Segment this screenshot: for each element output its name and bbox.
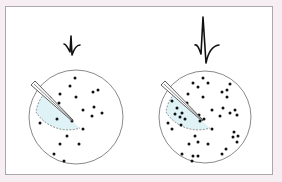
neuron-dot bbox=[197, 155, 200, 158]
neuron-dot bbox=[192, 82, 195, 85]
neuron-dot bbox=[191, 160, 194, 163]
neuron-dot bbox=[78, 143, 81, 146]
neuron-dot bbox=[232, 136, 235, 139]
neuron-dot bbox=[176, 107, 179, 110]
neuron-dot bbox=[69, 85, 72, 88]
neuron-dot bbox=[236, 141, 239, 144]
neuron-dot bbox=[82, 109, 85, 112]
neuron-dot bbox=[202, 77, 205, 80]
neuron-dot bbox=[184, 118, 187, 121]
large-spike-waveform bbox=[195, 17, 219, 63]
neuron-dot bbox=[207, 143, 210, 146]
neuron-dot bbox=[93, 106, 96, 109]
neuron-dot bbox=[181, 153, 184, 156]
neuron-dot bbox=[59, 143, 62, 146]
neuron-dot bbox=[236, 114, 239, 117]
neuron-dot bbox=[207, 82, 210, 85]
neuron-dot bbox=[192, 155, 195, 158]
neuron-dot bbox=[188, 143, 191, 146]
neuron-dot bbox=[221, 91, 224, 94]
neuron-dot bbox=[226, 89, 229, 92]
neuron-dot bbox=[171, 100, 174, 103]
neuron-dot bbox=[181, 112, 184, 115]
neuron-dot bbox=[39, 122, 42, 125]
panel-sparse bbox=[29, 36, 123, 164]
neuron-dot bbox=[197, 141, 200, 144]
neuron-dot bbox=[174, 113, 177, 116]
neuron-dot bbox=[92, 91, 95, 94]
neuron-dot bbox=[82, 128, 85, 131]
neuron-dot bbox=[59, 93, 62, 96]
neuron-dot bbox=[221, 153, 224, 156]
neuron-dot bbox=[229, 112, 232, 115]
neuron-dot bbox=[194, 135, 197, 138]
figure-canvas bbox=[0, 0, 282, 182]
neuron-dot bbox=[91, 115, 94, 118]
small-spike-waveform bbox=[64, 36, 80, 55]
neuron-dot bbox=[63, 160, 66, 163]
neuron-dot bbox=[75, 96, 78, 99]
neuron-dot bbox=[197, 86, 200, 89]
neuron-dot bbox=[66, 135, 69, 138]
neuron-dot bbox=[233, 131, 236, 134]
panel-dense bbox=[159, 17, 251, 163]
neuron-dot bbox=[211, 109, 214, 112]
neuron-dot bbox=[211, 128, 214, 131]
neuron-dot bbox=[222, 107, 225, 110]
neuron-dot bbox=[226, 96, 229, 99]
neuron-dot bbox=[179, 116, 182, 119]
neuron-dot bbox=[202, 96, 205, 99]
neuron-dot bbox=[56, 118, 59, 121]
neuron-dot bbox=[180, 124, 183, 127]
neuron-dot bbox=[187, 93, 190, 96]
neuron-dot bbox=[74, 77, 77, 80]
recording-zone bbox=[166, 94, 210, 130]
neuron-dot bbox=[171, 128, 174, 131]
neuron-dot bbox=[225, 148, 228, 151]
neuron-dot bbox=[234, 109, 237, 112]
neuron-dot bbox=[53, 153, 56, 156]
neuron-dot bbox=[101, 112, 104, 115]
neuron-dot bbox=[219, 115, 222, 118]
recording-zone bbox=[36, 94, 80, 130]
neuron-dot bbox=[229, 83, 232, 86]
neuron-dot bbox=[167, 122, 170, 125]
neuron-dot bbox=[237, 135, 240, 138]
neuron-dot bbox=[97, 89, 100, 92]
